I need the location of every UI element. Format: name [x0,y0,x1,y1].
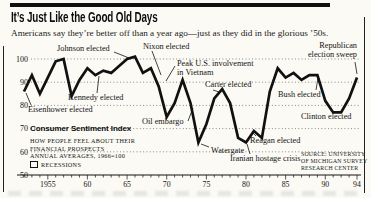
leader-line-johnson-elected [114,52,129,58]
x-tick-label: 70 [163,180,171,189]
x-tick-label: 90 [321,180,329,189]
annotation-johnson-elected: Johnson elected [57,45,110,54]
x-tick-label: 65 [123,180,131,189]
leader-line-kennedy-elected [97,76,99,93]
source-line-1: SOURCE: UNIVERSITY [301,151,367,158]
x-tick-label: 85 [282,180,290,189]
annotation-oil-embargo: Oil embargo [142,118,184,127]
leader-line-carter-elected [213,90,219,92]
y-tick-label: 80 [20,101,28,110]
legend-title: Consumer Sentiment Index [30,124,135,133]
x-tick-label: 80 [242,180,250,189]
y-tick-label: 50 [20,171,28,180]
y-tick-label: 60 [20,148,28,157]
leader-line-peak-us-involvement-vietnam [166,66,175,81]
legend-recessions-label: RECESSIONS [41,161,81,169]
annotation-bush-elected: Bush elected [278,91,321,100]
x-tick-label: 60 [84,180,92,189]
annotation-peak-us-involvement-vietnam: Peak U.S. involvement in Vietnam [177,60,254,78]
newspaper-chart-clipping: It’s Just Like the Good Old Days America… [0,0,371,198]
legend-description-line-2: FINANCIAL PROSPECTS [30,145,135,153]
recession-swatch-icon [30,161,38,168]
annotation-iranian-hostage-crisis: Iranian hostage crisis [230,155,301,164]
annotation-eisenhower-elected: Eisenhower elected [28,106,93,115]
annotation-kennedy-elected: Kennedy elected [68,94,124,103]
x-tick-label: 1955 [40,180,56,189]
legend-recessions-item: RECESSIONS [30,161,135,169]
annotation-clinton-elected: Clinton elected [301,113,351,122]
chart-legend: Consumer Sentiment Index HOW PEOPLE FEEL… [30,124,135,168]
annotation-carter-elected: Carter elected [205,81,251,90]
print-bleed-smudge [8,191,360,196]
annotation-republican-election-sweep: Republican election sweep [308,42,357,60]
source-credit: SOURCE: UNIVERSITY OF MICHIGAN SURVEY RE… [301,151,367,172]
annotation-nixon-elected: Nixon elected [143,43,189,52]
annotation-reagan-elected: Reagan elected [250,137,300,146]
x-tick-label: 75 [203,180,211,189]
leader-line-republican-election-sweep [355,62,357,74]
legend-description-line-3: ANNUAL AVERAGES, 1966=100 [30,152,135,160]
x-tick-label: 94 [353,180,361,189]
y-tick-label: 100 [16,55,28,64]
leader-line-watergate [201,144,209,147]
legend-description-line-1: HOW PEOPLE FEEL ABOUT THEIR [30,137,135,145]
y-tick-label: 70 [20,124,28,133]
source-line-2: OF MICHIGAN SURVEY [301,158,367,165]
source-line-3: RESEARCH CENTER [301,165,367,172]
leader-line-bush-elected [316,78,318,90]
